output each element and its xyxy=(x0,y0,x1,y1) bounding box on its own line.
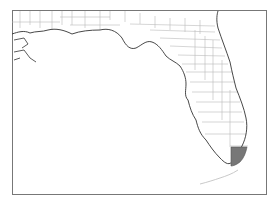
florida-county-map xyxy=(0,0,278,206)
map-frame xyxy=(13,11,267,195)
